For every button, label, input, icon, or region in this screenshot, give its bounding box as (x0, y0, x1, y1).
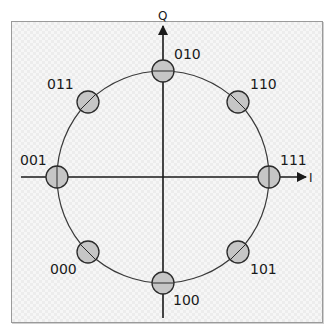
constellation-point-001: 001 (20, 152, 68, 188)
constellation-diagram: I Q 111 110 010 011 001 000 100 (0, 0, 333, 332)
point-label-111: 111 (280, 152, 307, 168)
point-label-011: 011 (47, 76, 74, 92)
point-label-000: 000 (50, 261, 77, 277)
i-axis-label: I (309, 171, 313, 185)
q-axis-label: Q (158, 9, 167, 23)
constellation-point-011: 011 (47, 76, 99, 113)
point-label-001: 001 (20, 152, 47, 168)
constellation-point-100: 100 (152, 272, 200, 308)
constellation-point-110: 110 (227, 76, 277, 113)
constellation-point-010: 010 (152, 46, 201, 82)
constellation-point-101: 101 (227, 241, 277, 277)
point-label-100: 100 (173, 292, 200, 308)
point-label-110: 110 (250, 76, 277, 92)
constellation-point-111: 111 (258, 152, 307, 188)
constellation-point-000: 000 (50, 241, 99, 277)
point-label-101: 101 (250, 261, 277, 277)
point-label-010: 010 (174, 46, 201, 62)
